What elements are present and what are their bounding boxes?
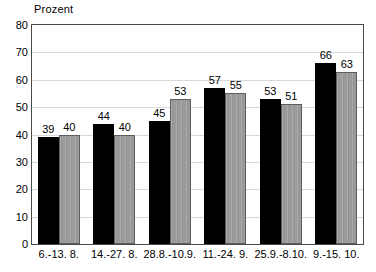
bar-value-label: 40 <box>55 122 84 133</box>
gridline <box>32 107 363 108</box>
bar <box>59 135 80 245</box>
y-axis-tick-label: 30 <box>0 157 28 168</box>
bar-value-label: 40 <box>110 122 139 133</box>
bar-value-label: 53 <box>166 86 195 97</box>
y-axis-tick-labels: 01020304050607080 <box>0 0 28 272</box>
bar <box>38 137 59 244</box>
bar <box>315 63 336 244</box>
plot-area: 394044404553575553516663 <box>31 24 364 245</box>
bar <box>149 121 170 244</box>
x-axis-tick-label: 14.-27. 8. <box>87 248 143 260</box>
bar-value-label: 45 <box>145 108 174 119</box>
gridline <box>32 217 363 218</box>
bar <box>336 72 357 244</box>
x-axis-tick-labels: 6.-13. 8.14.-27. 8.28.8.-10.9.11.-24. 9.… <box>31 248 364 268</box>
gridline <box>32 189 363 190</box>
bar <box>170 99 191 244</box>
x-axis-tick-label: 9.-15. 10. <box>309 248 365 260</box>
x-axis-tick-label: 28.8.-10.9. <box>142 248 198 260</box>
y-axis-tick-label: 50 <box>0 102 28 113</box>
x-axis-tick-label: 11.-24. 9. <box>198 248 254 260</box>
bar <box>225 93 246 244</box>
y-axis-tick-label: 20 <box>0 184 28 195</box>
x-axis-tick-label: 6.-13. 8. <box>31 248 87 260</box>
bar-value-label: 63 <box>332 59 361 70</box>
bar-value-label: 55 <box>221 80 250 91</box>
bar <box>260 99 281 244</box>
y-axis-tick-label: 0 <box>0 239 28 250</box>
bar <box>93 124 114 244</box>
y-axis-tick-label: 80 <box>0 20 28 31</box>
x-axis-tick-label: 25.9.-8.10. <box>253 248 309 260</box>
gridline <box>32 135 363 136</box>
y-axis-tick-label: 60 <box>0 75 28 86</box>
y-axis-tick-label: 70 <box>0 47 28 58</box>
bar <box>114 135 135 245</box>
bar <box>204 88 225 244</box>
y-axis-tick-label: 10 <box>0 212 28 223</box>
gridline <box>32 162 363 163</box>
y-axis-title: Prozent <box>34 3 73 16</box>
bar <box>281 104 302 244</box>
bar-value-label: 44 <box>89 111 118 122</box>
gridline <box>32 80 363 81</box>
bar-value-label: 51 <box>277 91 306 102</box>
bar-chart: Prozent 01020304050607080 39404440455357… <box>0 0 376 272</box>
y-axis-tick-label: 40 <box>0 130 28 141</box>
